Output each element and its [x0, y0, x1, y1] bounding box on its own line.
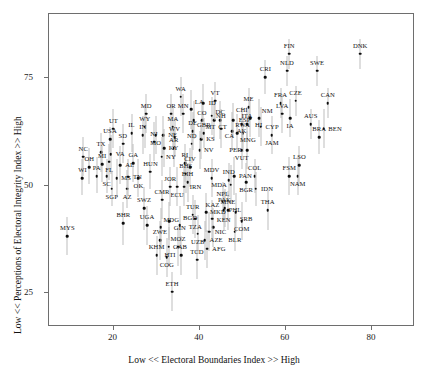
point-label: MI	[98, 153, 106, 160]
y-axis-title: Low << Perceptions of Electoral Integrit…	[13, 116, 23, 334]
data-point	[316, 70, 319, 73]
point-label: MKD	[210, 209, 226, 216]
data-point	[210, 115, 213, 118]
data-point	[271, 134, 274, 137]
point-label: MNG	[240, 137, 256, 144]
point-label: THA	[261, 199, 275, 206]
point-label: VUT	[235, 155, 249, 162]
chart-root: 20406080 255075 MYSWINCOHPATXMIFLVASCUSA…	[0, 0, 428, 382]
point-label: ME	[244, 96, 254, 103]
point-label: TUR	[186, 203, 200, 210]
data-point	[327, 102, 330, 105]
point-label: JOR	[164, 175, 176, 182]
point-label: IL	[128, 122, 134, 129]
point-label: OK	[134, 183, 144, 190]
point-label: SC	[102, 181, 110, 188]
point-label: VT	[211, 90, 220, 97]
data-point	[197, 233, 200, 236]
point-label: DE	[188, 120, 197, 127]
point-label: PHL	[229, 207, 242, 214]
point-label: SWZ	[137, 197, 151, 204]
point-label: SRB	[240, 216, 253, 223]
point-label: CO	[197, 110, 206, 117]
point-label: ECU	[170, 191, 184, 198]
point-label: UGA	[140, 214, 155, 221]
point-label: GAB	[173, 243, 187, 250]
data-point	[294, 100, 297, 103]
data-point	[289, 117, 292, 120]
point-label: MN	[178, 102, 189, 109]
point-label: DNK	[353, 42, 368, 49]
data-point	[110, 153, 113, 156]
data-point	[95, 175, 98, 178]
x-tick-mark	[285, 326, 286, 330]
data-point	[210, 177, 213, 180]
data-point	[66, 235, 69, 238]
data-point	[288, 175, 291, 178]
data-point	[88, 166, 91, 169]
point-label: CZE	[289, 90, 302, 97]
point-label: GBR	[197, 122, 211, 129]
data-point	[179, 95, 182, 98]
data-point	[246, 149, 249, 152]
data-point	[318, 136, 321, 139]
data-point	[190, 108, 193, 111]
data-point	[167, 245, 170, 248]
y-tick-mark	[44, 185, 48, 186]
data-point	[182, 112, 185, 115]
point-label: WV	[169, 126, 180, 133]
point-label: SD	[119, 132, 128, 139]
data-point	[205, 211, 208, 214]
data-point	[286, 70, 289, 73]
point-label: HI	[255, 122, 262, 129]
point-label: LA	[195, 99, 204, 106]
point-label: MS	[121, 175, 131, 182]
point-label: MYS	[60, 225, 75, 232]
point-label: NC	[79, 145, 88, 152]
x-axis-title: Low << Electoral Boundaries Index >> Hig…	[0, 355, 428, 365]
point-label: BRA	[312, 126, 326, 133]
point-label: ETH	[165, 280, 178, 287]
data-point	[208, 230, 211, 233]
data-point	[149, 170, 152, 173]
point-label: HTI	[164, 252, 175, 259]
data-point	[105, 175, 108, 178]
point-label: MD	[141, 102, 152, 109]
point-label: VA	[116, 151, 125, 158]
data-point	[186, 181, 189, 184]
point-label: LVA	[276, 102, 288, 109]
point-label: TCD	[190, 248, 204, 255]
data-point	[211, 218, 214, 221]
data-point	[101, 163, 104, 166]
point-label: IA	[286, 123, 293, 130]
point-label: NLD	[280, 60, 294, 67]
point-label: ND	[187, 132, 197, 139]
point-label: NV	[204, 147, 214, 154]
point-label: WY	[139, 115, 150, 122]
point-label: PER	[229, 147, 241, 154]
data-point	[109, 138, 112, 141]
point-label: CAN	[321, 92, 335, 99]
point-label: IN	[139, 124, 146, 131]
point-label: CA	[225, 132, 234, 139]
data-point	[146, 224, 149, 227]
point-label: ZWE	[153, 229, 168, 236]
data-point	[161, 198, 164, 201]
point-label: NAM	[290, 181, 306, 188]
y-tick-label: 75	[24, 72, 33, 82]
point-label: PA	[93, 165, 101, 172]
data-point	[116, 177, 119, 180]
data-point	[143, 207, 146, 210]
x-tick-label: 80	[366, 332, 375, 342]
point-label: UT	[109, 117, 118, 124]
point-label: TX	[96, 141, 105, 148]
point-label: AR	[169, 137, 178, 144]
x-tick-mark	[371, 326, 372, 330]
point-label: FIN	[284, 42, 295, 49]
point-label: BGR	[239, 187, 253, 194]
point-label: COM	[234, 226, 249, 233]
point-label: DC	[216, 109, 225, 116]
point-label: CRI	[260, 66, 271, 73]
point-label: CMR	[155, 188, 170, 195]
point-label: AZE	[210, 237, 223, 244]
